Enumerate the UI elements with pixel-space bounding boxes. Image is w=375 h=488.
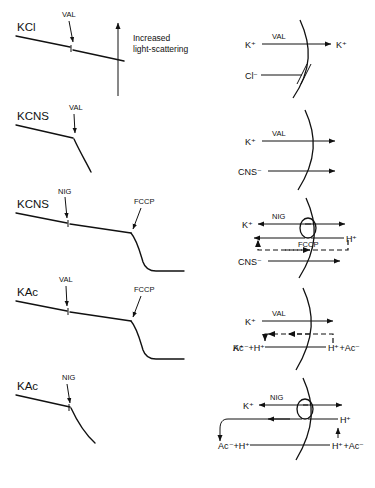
carrier-label: VAL [272, 129, 286, 138]
membrane-arc [296, 288, 311, 370]
k-recycle-path [220, 419, 302, 441]
trace-addition-label: VAL [62, 10, 76, 19]
trace-addition-label: FCCP [134, 197, 154, 206]
trace-salt-label: KCl [17, 21, 36, 33]
diagram-kcns: K⁺ VAL CNS⁻ [238, 110, 335, 190]
species-label-k-left: K⁺ [245, 137, 256, 147]
trace-addition-label: NIG [58, 187, 72, 196]
figure-canvas: Increased light-scattering KCl VAL KCNS … [0, 0, 375, 488]
trace-kcns-val: KCNS VAL [16, 103, 91, 172]
trace-salt-label: KCNS [17, 110, 49, 122]
membrane-arc [293, 20, 308, 98]
carrier-label: NIG [272, 212, 286, 221]
species-label-h-ac-right: H⁺+Ac⁻ [332, 441, 364, 451]
membrane-arc [298, 110, 313, 190]
trace-kac-val-fccp: KAc VAL FCCP [16, 275, 184, 359]
trace-kcns-nig-fccp: KCNS NIG FCCP [16, 187, 184, 271]
diagram-kcl: K⁺ VAL K⁺ Cl⁻ [245, 20, 347, 98]
species-label-h-ac-right: H⁺+Ac⁻ [328, 343, 360, 353]
trace-salt-label: KCNS [17, 198, 49, 210]
trace-addition-label: VAL [59, 275, 73, 284]
axis-label-line2: light-scattering [133, 44, 189, 54]
species-label-k-left: K⁺ [245, 40, 256, 50]
diagram-kac-val-fccp: K⁺ VAL K⁺ Ac⁻+H⁺ H⁺+Ac⁻ [233, 288, 360, 370]
species-label-h-right: H⁺ [340, 415, 352, 425]
diagram-kac-nig: K⁺ NIG H⁺ Ac⁻+H⁺ H⁺+Ac⁻ [218, 378, 364, 460]
light-scattering-axis: Increased light-scattering [118, 23, 189, 96]
blocked-icon [297, 64, 311, 84]
species-label-cns-left: CNS⁻ [238, 167, 262, 177]
trace-addition-label: VAL [69, 103, 83, 112]
second-carrier-label: FCCP [298, 240, 318, 249]
dissociation-return-loop [268, 334, 333, 343]
carrier-label: VAL [272, 309, 286, 318]
diagram-kcns-nig-fccp: K⁺ NIG H⁺ FCCP CNS⁻ [238, 198, 358, 278]
species-label-cl-left: Cl⁻ [245, 71, 259, 81]
trace-salt-label: KAc [17, 286, 38, 298]
species-label-k-left: K⁺ [245, 317, 256, 327]
trace-salt-label: KAc [17, 380, 38, 392]
carrier-label: NIG [270, 393, 284, 402]
trace-addition-label: FCCP [134, 285, 154, 294]
trace-addition-label: NIG [62, 373, 76, 382]
trace-kac-nig: KAc NIG [16, 373, 95, 443]
carrier-label: VAL [272, 32, 286, 41]
species-label-k-right: K⁺ [336, 40, 347, 50]
species-label-cns-left: CNS⁻ [238, 257, 262, 267]
species-label-k-left: K⁺ [242, 220, 253, 230]
species-label-ac-h-left: Ac⁻+H⁺ [218, 441, 250, 451]
species-label-k-left: K⁺ [243, 401, 254, 411]
species-label-ac-h-left: Ac⁻+H⁺ [233, 343, 265, 353]
axis-label-line1: Increased [133, 33, 171, 43]
trace-kcl: KCl VAL [16, 10, 124, 61]
